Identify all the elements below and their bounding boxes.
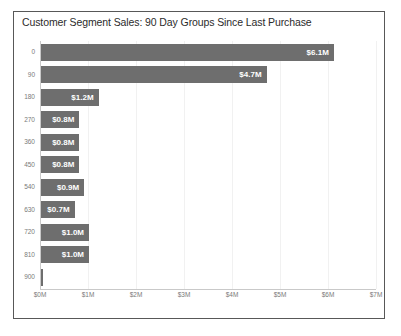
x-axis-tick-label: $3M [178, 291, 191, 298]
x-axis-tick-label: $7M [370, 291, 383, 298]
x-axis-tick-label: $4M [226, 291, 239, 298]
bar-row[interactable]: $6.1M [40, 41, 376, 64]
bar-value-label: $1.2M [71, 89, 93, 106]
bar-row[interactable]: $0.8M [40, 154, 376, 177]
bar-value-label: $1.0M [62, 246, 84, 263]
bar-row[interactable]: $0.8M [40, 131, 376, 154]
bar-value-label: $0.8M [52, 111, 74, 128]
x-axis-tick-label: $2M [130, 291, 143, 298]
x-axis-tick-label: $5M [274, 291, 287, 298]
bar-row[interactable]: $0.7M [40, 199, 376, 222]
x-axis-tick-label: $1M [82, 291, 95, 298]
bar[interactable] [41, 269, 43, 286]
bar-row[interactable]: $0.9M [40, 176, 376, 199]
bar-row[interactable]: $0.8M [40, 109, 376, 132]
y-axis-tick-labels: 090180270360450540630720810900 [14, 41, 38, 289]
y-axis-tick-label: 720 [24, 221, 35, 244]
bar-row[interactable]: $1.0M [40, 244, 376, 267]
bar-value-label: $6.1M [307, 44, 329, 61]
y-axis-tick-label: 450 [24, 154, 35, 177]
bar-row[interactable]: $1.0M [40, 221, 376, 244]
bar-row[interactable]: $4.7M [40, 64, 376, 87]
chart-card: Customer Segment Sales: 90 Day Groups Si… [13, 11, 385, 319]
plot-area: $6.1M$4.7M$1.2M$0.8M$0.8M$0.8M$0.9M$0.7M… [40, 41, 376, 289]
chart-title: Customer Segment Sales: 90 Day Groups Si… [22, 16, 312, 28]
y-axis-tick-label: 540 [24, 176, 35, 199]
bar[interactable] [41, 66, 267, 83]
x-axis-line [40, 289, 376, 290]
bar-value-label: $0.8M [52, 134, 74, 151]
bar-value-label: $0.7M [47, 201, 69, 218]
bar[interactable] [41, 44, 334, 61]
y-axis-tick-label: 0 [31, 41, 35, 64]
bar-value-label: $0.9M [57, 179, 79, 196]
bar-value-label: $1.0M [62, 224, 84, 241]
x-axis-tick-labels: $0M$1M$2M$3M$4M$5M$6M$7M [40, 291, 376, 305]
gridline [376, 41, 377, 289]
bars-layer: $6.1M$4.7M$1.2M$0.8M$0.8M$0.8M$0.9M$0.7M… [40, 41, 376, 289]
x-axis-tick-label: $0M [34, 291, 47, 298]
y-axis-tick-label: 810 [24, 244, 35, 267]
bar-row[interactable]: $1.2M [40, 86, 376, 109]
bar-row[interactable] [40, 266, 376, 289]
y-axis-tick-label: 630 [24, 199, 35, 222]
y-axis-tick-label: 900 [24, 266, 35, 289]
y-axis-tick-label: 90 [28, 64, 35, 87]
y-axis-tick-label: 270 [24, 109, 35, 132]
y-axis-tick-label: 360 [24, 131, 35, 154]
bar-value-label: $0.8M [52, 156, 74, 173]
bar-value-label: $4.7M [239, 66, 261, 83]
y-axis-tick-label: 180 [24, 86, 35, 109]
x-axis-tick-label: $6M [322, 291, 335, 298]
